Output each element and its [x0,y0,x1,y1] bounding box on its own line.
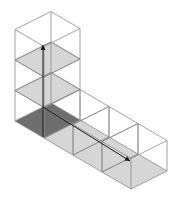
cube-edge [80,90,109,107]
cube-edge [15,30,44,47]
cube-edge [138,124,167,141]
column-slice-level-2 [15,42,80,77]
cube-edge [44,29,80,47]
cube-edge [15,12,51,30]
cube-edge [109,107,138,124]
cube-diagram-canvas [0,0,188,207]
cube-edge [51,12,80,29]
column-slice-level-1 [15,73,80,108]
cube-edge [102,124,138,142]
cube-edge [73,107,109,125]
cube-edge [131,141,167,159]
cube-diagram [0,0,188,207]
